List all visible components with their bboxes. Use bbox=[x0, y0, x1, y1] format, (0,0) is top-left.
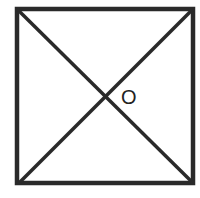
square-diagram: O bbox=[0, 0, 200, 198]
center-label-o: O bbox=[121, 86, 137, 108]
